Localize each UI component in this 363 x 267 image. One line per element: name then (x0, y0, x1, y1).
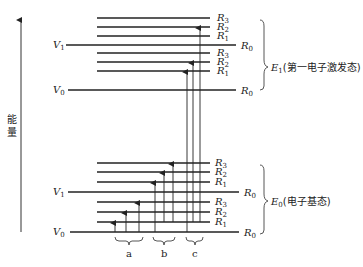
upper-r-labels: R3 R2 R1 R0 R3 R2 R1 R0 (216, 12, 253, 98)
group-label-c: c (192, 248, 198, 259)
upper-v1-label: V1 (53, 39, 65, 52)
svg-text:R0: R0 (243, 227, 256, 240)
diagram-canvas: 能 量 V1 V0 V1 V0 R3 R2 R1 R0 R3 R2 R1 R0 (0, 0, 363, 267)
lower-state-brace (260, 165, 268, 234)
axis-label-energy-2: 量 (7, 127, 17, 138)
group-label-b: b (161, 248, 167, 259)
svg-text:R0: R0 (243, 187, 256, 200)
lower-v0-label: V0 (53, 226, 65, 239)
upper-v0-label: V0 (53, 84, 65, 97)
upper-state-brace (260, 20, 268, 90)
lower-state-label: E0(电子基态) (270, 195, 331, 209)
transitions-a (115, 203, 139, 232)
group-label-a: a (126, 248, 132, 259)
lower-r-labels: R3 R2 R1 R0 R3 R2 R1 R0 (214, 157, 256, 240)
axis-label-energy-1: 能 (7, 113, 17, 125)
upper-levels (66, 18, 236, 90)
lower-levels (68, 163, 239, 232)
lower-v1-label: V1 (53, 186, 65, 199)
upper-state-label: E1(第一电子激发态) (270, 61, 361, 75)
svg-text:R0: R0 (240, 85, 253, 98)
svg-text:R0: R0 (240, 40, 253, 53)
energy-level-diagram: 能 量 V1 V0 V1 V0 R3 R2 R1 R0 R3 R2 R1 R0 (0, 0, 363, 267)
group-braces (115, 237, 203, 245)
